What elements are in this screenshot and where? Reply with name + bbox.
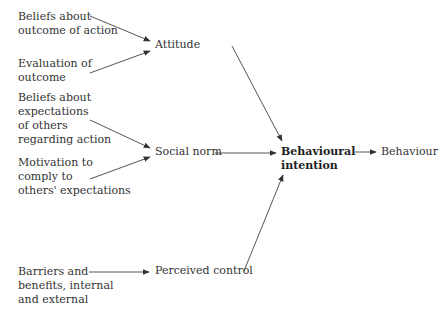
edge-attitude-to-intention	[232, 46, 282, 141]
diagram-canvas: Beliefs about outcome of action Evaluati…	[0, 0, 448, 317]
node-evaluation: Evaluation of outcome	[18, 57, 92, 85]
edge-evaluation-to-attitude	[90, 51, 150, 73]
node-behavioural-intention: Behavioural intention	[281, 145, 355, 173]
node-beliefs-outcome: Beliefs about outcome of action	[18, 10, 118, 38]
node-attitude: Attitude	[155, 38, 200, 52]
node-beliefs-expectations: Beliefs about expectations of others reg…	[18, 91, 111, 147]
node-perceived-control: Perceived control	[155, 264, 253, 278]
node-barriers: Barriers and benefits, internal and exte…	[18, 265, 114, 307]
node-behaviour: Behaviour	[381, 145, 438, 159]
edge-perceived-control-to-intention	[244, 175, 283, 271]
node-motivation: Motivation to comply to others' expectat…	[18, 156, 131, 198]
node-social-norm: Social norm	[155, 145, 222, 159]
